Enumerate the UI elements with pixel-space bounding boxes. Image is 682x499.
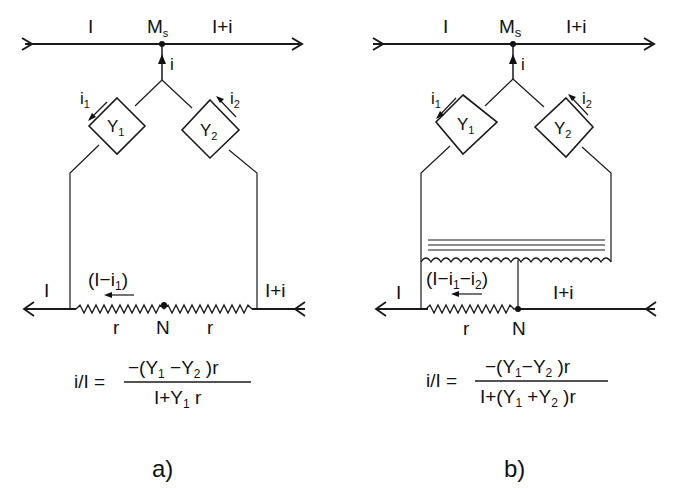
- branch-current-label: i: [521, 55, 525, 74]
- i2-current-label: i2: [230, 89, 240, 110]
- node-n-dot: [161, 302, 167, 308]
- branch-current-arrow-icon: [509, 54, 517, 64]
- formula-numerator: −(Y1−Y2 )r: [485, 356, 571, 380]
- resistor-label: r: [463, 318, 470, 339]
- diagram-b: I Ms I+i i Y1 Y2 i1 i2: [373, 16, 656, 482]
- top-right-current-label: I+i: [566, 16, 587, 37]
- circuit-diagrams: I Ms I+i i Y1 Y2 i1 i2 I: [0, 0, 682, 499]
- diagram-a: I Ms I+i i Y1 Y2 i1 i2 I: [22, 16, 305, 482]
- transformer-core: [428, 240, 605, 250]
- bottom-left-current-label: I: [396, 282, 401, 303]
- admittance-y2-label: Y2: [200, 121, 217, 142]
- formula-numerator: −(Y1 −Y2 )r: [128, 357, 219, 381]
- node-ms-label: Ms: [499, 16, 522, 40]
- i1-current-label: i1: [80, 89, 90, 110]
- bottom-left-current-label: I: [44, 280, 49, 301]
- i2-arrow-icon: [216, 96, 224, 103]
- formula-lhs: i/I =: [74, 371, 105, 392]
- node-ms-label: Ms: [147, 16, 169, 39]
- caption-a: a): [152, 455, 173, 482]
- resistor-r: [426, 305, 518, 313]
- bottom-right-current-label: I+i: [265, 280, 286, 301]
- i2-current-label: i2: [582, 89, 592, 110]
- bottom-right-current-label: I+i: [553, 282, 574, 303]
- loop-current-arrow-icon: [104, 292, 112, 298]
- resistor-r-left: [76, 305, 164, 313]
- loop-current-label: (I−i1−i2): [426, 268, 488, 292]
- top-right-current-label: I+i: [212, 16, 233, 37]
- branch-current-label: i: [170, 55, 174, 74]
- node-n-label: N: [156, 317, 170, 338]
- transformer-winding: [421, 258, 611, 262]
- admittance-y2-label: Y2: [554, 119, 571, 140]
- resistor-left-label: r: [113, 317, 120, 338]
- node-n-label: N: [512, 318, 526, 339]
- formula-denominator: I+(Y1 +Y2 )r: [480, 386, 576, 410]
- resistor-r-right: [164, 305, 252, 313]
- node-n-dot: [515, 306, 521, 312]
- formula-denominator: I+Y1 r: [154, 387, 202, 411]
- right-leg-a: [229, 150, 257, 309]
- top-left-current-label: I: [88, 16, 93, 37]
- loop-current-label: (I−i1): [88, 269, 128, 293]
- caption-b: b): [504, 455, 525, 482]
- i2-arrow-icon: [568, 94, 576, 101]
- branch-current-arrow-icon: [158, 54, 166, 64]
- resistor-right-label: r: [207, 317, 214, 338]
- formula-lhs: i/I =: [426, 370, 457, 391]
- top-left-current-label: I: [443, 16, 448, 37]
- admittance-y1-label: Y1: [107, 117, 124, 138]
- admittance-y1-label: Y1: [457, 115, 474, 136]
- i1-current-label: i1: [431, 89, 441, 110]
